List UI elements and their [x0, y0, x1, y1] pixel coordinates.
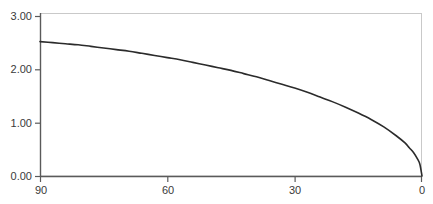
y-tick-marks [35, 17, 40, 177]
x-tick-label-60: 60 [153, 185, 183, 196]
x-tick-label-30: 30 [280, 185, 310, 196]
chart-container: 3.00 2.00 1.00 0.00 90 60 30 0 [0, 0, 433, 204]
plot-border [41, 14, 422, 177]
x-tick-label-90: 90 [26, 185, 56, 196]
x-tick-label-0: 0 [407, 185, 433, 196]
x-tick-marks [41, 177, 422, 183]
y-tick-label-0: 0.00 [0, 171, 32, 182]
y-tick-label-1: 1.00 [0, 118, 32, 129]
y-tick-label-3: 3.00 [0, 11, 32, 22]
y-tick-label-2: 2.00 [0, 64, 32, 75]
plot-area [0, 0, 433, 204]
